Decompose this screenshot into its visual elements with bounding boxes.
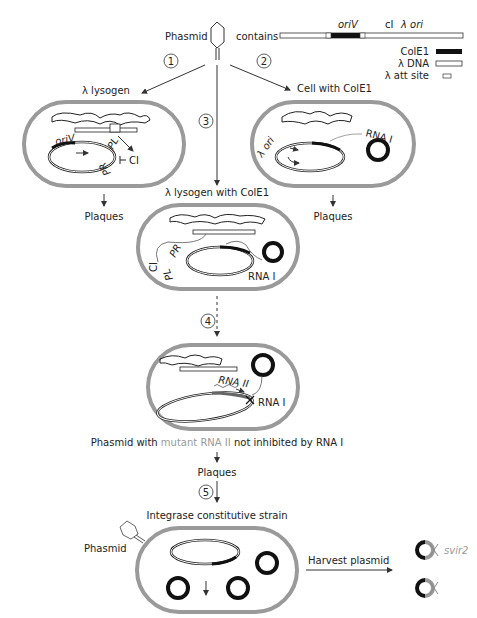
lysogen-ci: CI: [129, 155, 139, 166]
legend-att-site: λ att site: [385, 70, 429, 81]
integrase-title: Integrase constitutive strain: [146, 510, 287, 521]
cole1-plaques: Plaques: [314, 211, 353, 222]
legend: ColE1 λ DNA λ att site: [385, 46, 462, 81]
step-1: 1: [164, 54, 178, 68]
step-3: 3: [199, 114, 213, 128]
legend-lambda-dna: λ DNA: [398, 58, 429, 69]
harvested-plasmid-1: [417, 542, 438, 558]
harvested-plasmid-2: [417, 580, 438, 596]
mutant-cell: [148, 345, 298, 429]
svg-text:3: 3: [203, 116, 209, 127]
construct-map: [280, 33, 463, 38]
lysogen-cole1-title: λ lysogen with ColE1: [165, 187, 269, 198]
svg-text:4: 4: [205, 316, 211, 327]
lambda-ori-label: λ ori: [400, 19, 423, 30]
mutant-rna1: RNA I: [258, 397, 285, 408]
phasmid-diagram: Phasmid contains oriV cI λ ori ColE1 λ D…: [0, 0, 477, 618]
phasmid-injecting-icon: [120, 521, 145, 543]
lysogen-cole1-ci: CI: [148, 262, 159, 272]
lysogen-title: λ lysogen: [82, 85, 130, 96]
step-4: 4: [201, 314, 215, 328]
phage-icon: [211, 22, 224, 60]
svir2-label: svir2: [444, 545, 468, 556]
svg-text:1: 1: [168, 56, 174, 67]
svg-text:5: 5: [203, 487, 209, 498]
mutant-caption: Phasmid with mutant RNA II not inhibited…: [91, 437, 344, 448]
step-2: 2: [257, 54, 271, 68]
ci-label: cI: [385, 19, 393, 30]
legend-cole1: ColE1: [400, 46, 429, 57]
lysogen-plaques: Plaques: [85, 211, 124, 222]
svg-text:2: 2: [261, 56, 267, 67]
phasmid-label: Phasmid: [165, 31, 208, 42]
oriV-label: oriV: [338, 19, 359, 30]
integrase-phasmid-label: Phasmid: [84, 543, 127, 554]
step-5: 5: [199, 485, 213, 499]
contains-label: contains: [236, 31, 278, 42]
cole1-title: Cell with ColE1: [297, 83, 372, 94]
plaques-caption: Plaques: [198, 467, 237, 478]
harvest-label: Harvest plasmid: [308, 555, 389, 566]
lysogen-cole1-rna1: RNA I: [248, 271, 275, 282]
integrase-cell: [137, 528, 297, 612]
